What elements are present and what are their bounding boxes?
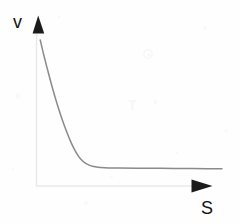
decay-curve-chart	[0, 0, 240, 223]
y-axis-arrowhead-icon	[33, 16, 45, 34]
x-axis-label: S	[201, 199, 213, 217]
decay-curve-path	[40, 40, 222, 169]
y-axis-label: v	[13, 13, 22, 31]
figure-container: v S	[0, 0, 240, 223]
x-axis-arrowhead-icon	[192, 180, 213, 193]
